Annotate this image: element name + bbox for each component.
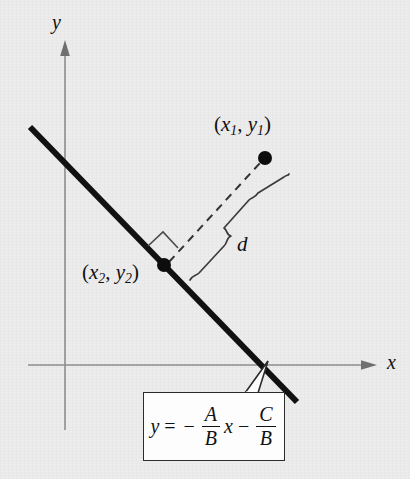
point-two-x-var: x (89, 260, 98, 284)
point-one-label: (x1, y1) (214, 114, 271, 138)
x-axis-arrowhead (361, 360, 377, 370)
equation-x: x (224, 415, 233, 438)
point-one-y-var: y (248, 112, 257, 136)
point-two-paren-open: ( (82, 260, 89, 284)
y-axis-label: y (52, 12, 61, 32)
point-one-dot (258, 151, 272, 165)
point-one-x-var: x (221, 112, 230, 136)
equation-fraction-c-over-b: C B (256, 404, 275, 448)
equation-frac1-denominator: B (202, 427, 220, 448)
point-two-label: (x2, y2) (82, 262, 139, 286)
equation-frac2-numerator: C (256, 404, 275, 425)
point-two-paren-close: ) (132, 260, 139, 284)
point-one-paren-open: ( (214, 112, 221, 136)
figure-container: y x (x1, y1) (x2, y2) d y = − A B x − C … (0, 0, 410, 479)
point-two-y-var: y (116, 260, 125, 284)
equation-equals: = (164, 415, 175, 438)
point-one-y-sub: 1 (257, 123, 264, 138)
point-two-dot (157, 258, 171, 272)
point-one-comma: , (237, 112, 248, 136)
axes-group (28, 40, 377, 430)
equation-frac2-denominator: B (257, 427, 275, 448)
equation-minus-first: − (184, 415, 195, 438)
point-two-comma: , (105, 260, 116, 284)
x-axis-label: x (387, 352, 396, 372)
equation-y: y (150, 415, 159, 438)
point-one-paren-close: ) (264, 112, 271, 136)
distance-brace (190, 174, 289, 280)
equation-frac1-numerator: A (202, 404, 220, 425)
distance-label: d (237, 234, 248, 255)
y-axis-arrowhead (60, 40, 70, 56)
equation-fraction-a-over-b: A B (202, 404, 220, 448)
equation-expression: y = − A B x − C B (150, 404, 277, 448)
right-angle-marker (148, 232, 178, 248)
point-two-y-sub: 2 (125, 271, 132, 286)
equation-callout-box: y = − A B x − C B (143, 392, 285, 461)
equation-minus-second: − (238, 415, 249, 438)
